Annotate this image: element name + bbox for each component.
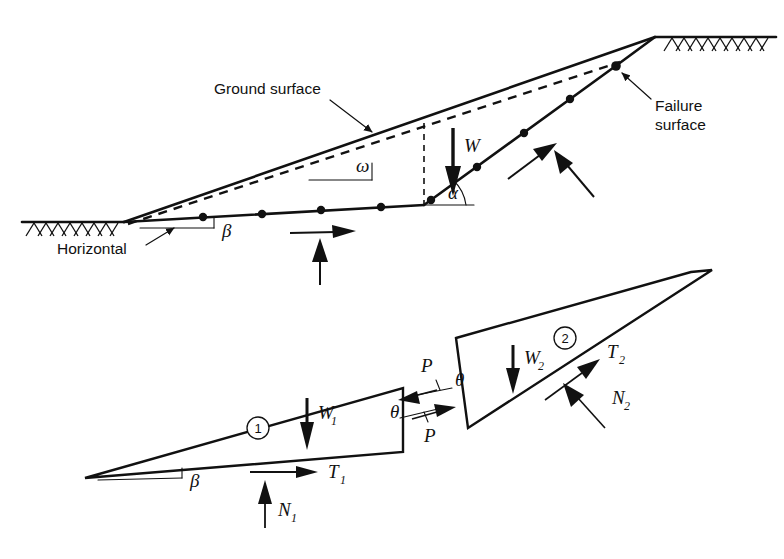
- theta-upper-marker: [412, 380, 452, 396]
- lower-free-body-diagram: 1 β W 1 T 1 N 1 2: [85, 270, 712, 528]
- label-alpha: α: [448, 182, 459, 203]
- wedge-two-normal-arrow: [563, 383, 605, 428]
- label-failure-surface-line1: Failure: [655, 97, 702, 114]
- interface-force-P-lower: [412, 404, 456, 419]
- label-horizontal: Horizontal: [57, 240, 127, 257]
- lower-plane-shear-arrow: [290, 225, 356, 238]
- label-theta-lower: θ: [390, 401, 399, 422]
- scarp-line: [617, 37, 655, 65]
- wedge-one-weight-arrow: [300, 398, 314, 450]
- right-ground-hatching: [664, 38, 768, 51]
- label-T1: T: [328, 461, 340, 482]
- failure-surface-leader: [622, 73, 651, 99]
- dashed-trial-surface: [128, 62, 620, 224]
- label-beta-upper: β: [221, 220, 232, 241]
- upper-slope-section: W ω α β Ground surface Failure surface H…: [22, 37, 776, 285]
- label-N1: N: [277, 499, 292, 520]
- label-failure-surface-line2: surface: [655, 116, 706, 133]
- ground-surface-leader: [330, 100, 372, 132]
- wedge-two-tag: 2: [561, 331, 568, 346]
- upper-plane-shear-arrow: [508, 143, 557, 179]
- horizontal-leader: [146, 228, 174, 245]
- figure-root: W ω α β Ground surface Failure surface H…: [0, 0, 784, 559]
- ground-surface-slope-face: [124, 37, 655, 222]
- label-N1-sub: 1: [291, 511, 297, 525]
- label-N2-sub: 2: [624, 399, 630, 413]
- wedge-one-shear-arrow: [250, 466, 318, 478]
- wedge-one-normal-arrow: [258, 480, 272, 528]
- label-omega: ω: [356, 155, 369, 176]
- label-P-lower: P: [423, 425, 436, 446]
- label-P-upper: P: [420, 355, 433, 376]
- upper-plane-normal-arrow: [554, 150, 594, 197]
- label-W: W: [464, 135, 482, 156]
- lower-plane-normal-arrow: [312, 238, 328, 285]
- label-W2-sub: 2: [538, 359, 544, 373]
- label-theta-upper: θ: [455, 369, 464, 390]
- label-ground-surface: Ground surface: [214, 80, 321, 97]
- slope-stability-figure: W ω α β Ground surface Failure surface H…: [0, 0, 784, 559]
- label-T1-sub: 1: [340, 473, 346, 487]
- label-T2: T: [607, 341, 619, 362]
- wedge-two-weight-arrow: [506, 345, 520, 394]
- label-W1-sub: 1: [331, 414, 337, 428]
- wedge-one-tag: 1: [254, 421, 261, 436]
- label-T2-sub: 2: [619, 353, 625, 367]
- left-ground-hatching: [26, 223, 118, 236]
- label-beta-wedge-one: β: [189, 470, 200, 491]
- wedge-one-outline: [85, 388, 403, 478]
